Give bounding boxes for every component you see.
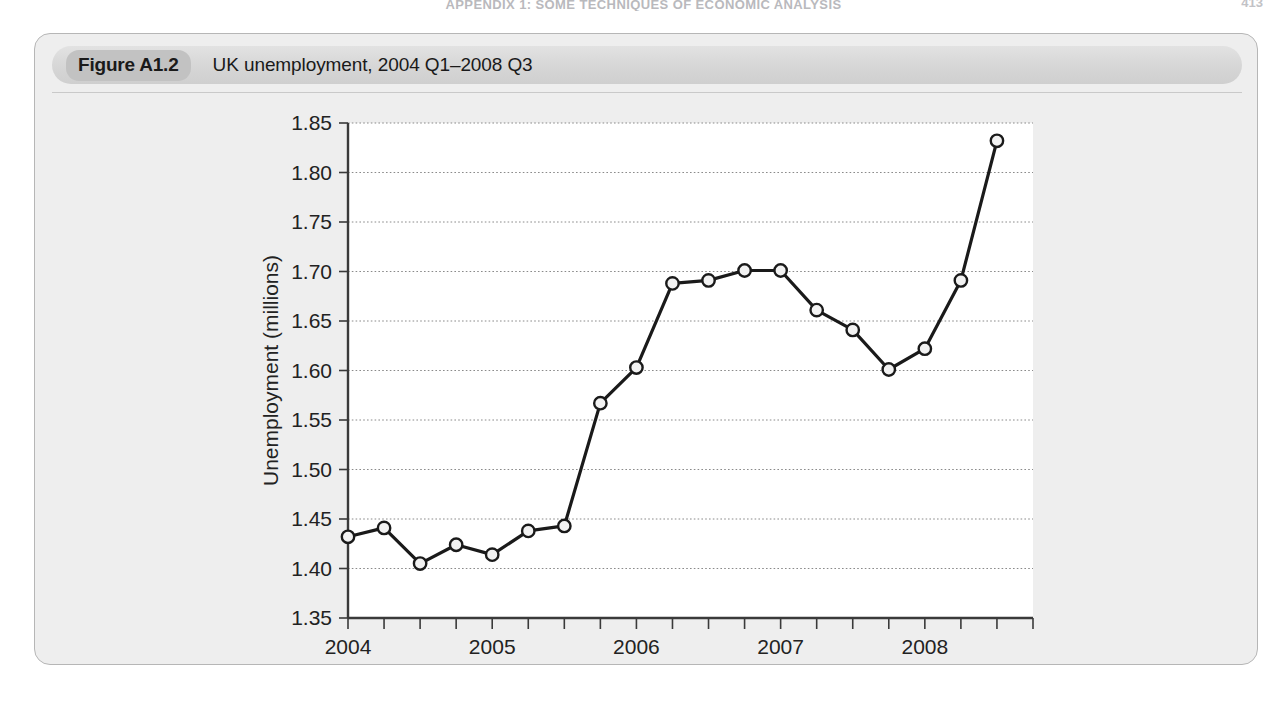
y-tick-label: 1.60 <box>291 359 332 382</box>
data-point-marker <box>522 525 534 537</box>
figure-title: UK unemployment, 2004 Q1–2008 Q3 <box>213 54 533 76</box>
y-tick-label: 1.45 <box>291 507 332 530</box>
x-tick-label: 2007 <box>757 635 804 658</box>
y-tick-label: 1.85 <box>291 111 332 134</box>
x-axis-tick-labels: 20042005200620072008 <box>325 635 949 658</box>
line-chart: 1.351.401.451.501.551.601.651.701.751.80… <box>35 94 1259 665</box>
y-tick-label: 1.75 <box>291 210 332 233</box>
y-tick-label: 1.55 <box>291 408 332 431</box>
data-point-marker <box>486 548 498 560</box>
caption-divider <box>52 92 1242 93</box>
data-point-marker <box>883 363 895 375</box>
data-point-marker <box>774 264 786 276</box>
y-tick-label: 1.65 <box>291 309 332 332</box>
data-point-marker <box>342 531 354 543</box>
figure-caption-bar: Figure A1.2 UK unemployment, 2004 Q1–200… <box>52 46 1242 84</box>
running-head: APPENDIX 1: SOME TECHNIQUES OF ECONOMIC … <box>0 0 1287 11</box>
data-point-marker <box>414 557 426 569</box>
y-axis-tick-labels: 1.351.401.451.501.551.601.651.701.751.80… <box>291 111 332 629</box>
page-number: 413 <box>1241 0 1263 10</box>
data-point-marker <box>810 304 822 316</box>
data-point-marker <box>666 277 678 289</box>
x-tick-label: 2008 <box>901 635 948 658</box>
data-point-marker <box>919 343 931 355</box>
y-tick-label: 1.50 <box>291 458 332 481</box>
y-tick-label: 1.80 <box>291 161 332 184</box>
data-point-marker <box>630 361 642 373</box>
x-tick-label: 2006 <box>613 635 660 658</box>
data-point-marker <box>558 520 570 532</box>
data-point-marker <box>738 264 750 276</box>
data-point-marker <box>955 274 967 286</box>
figure-card: Figure A1.2 UK unemployment, 2004 Q1–200… <box>34 33 1258 665</box>
chart-region: 1.351.401.451.501.551.601.651.701.751.80… <box>35 94 1259 665</box>
y-tick-label: 1.40 <box>291 557 332 580</box>
data-point-marker <box>594 397 606 409</box>
data-point-marker <box>847 324 859 336</box>
x-axis-ticks <box>348 618 1033 629</box>
figure-label: Figure A1.2 <box>66 50 191 81</box>
y-tick-label: 1.70 <box>291 260 332 283</box>
data-point-marker <box>702 274 714 286</box>
x-tick-label: 2004 <box>325 635 372 658</box>
y-axis-title: Unemployment (millions) <box>259 255 282 486</box>
y-tick-label: 1.35 <box>291 606 332 629</box>
data-point-marker <box>991 135 1003 147</box>
x-tick-label: 2005 <box>469 635 516 658</box>
data-point-marker <box>450 539 462 551</box>
data-point-marker <box>378 522 390 534</box>
y-axis-title-text: Unemployment (millions) <box>259 255 282 486</box>
running-head-text: APPENDIX 1: SOME TECHNIQUES OF ECONOMIC … <box>445 0 841 11</box>
